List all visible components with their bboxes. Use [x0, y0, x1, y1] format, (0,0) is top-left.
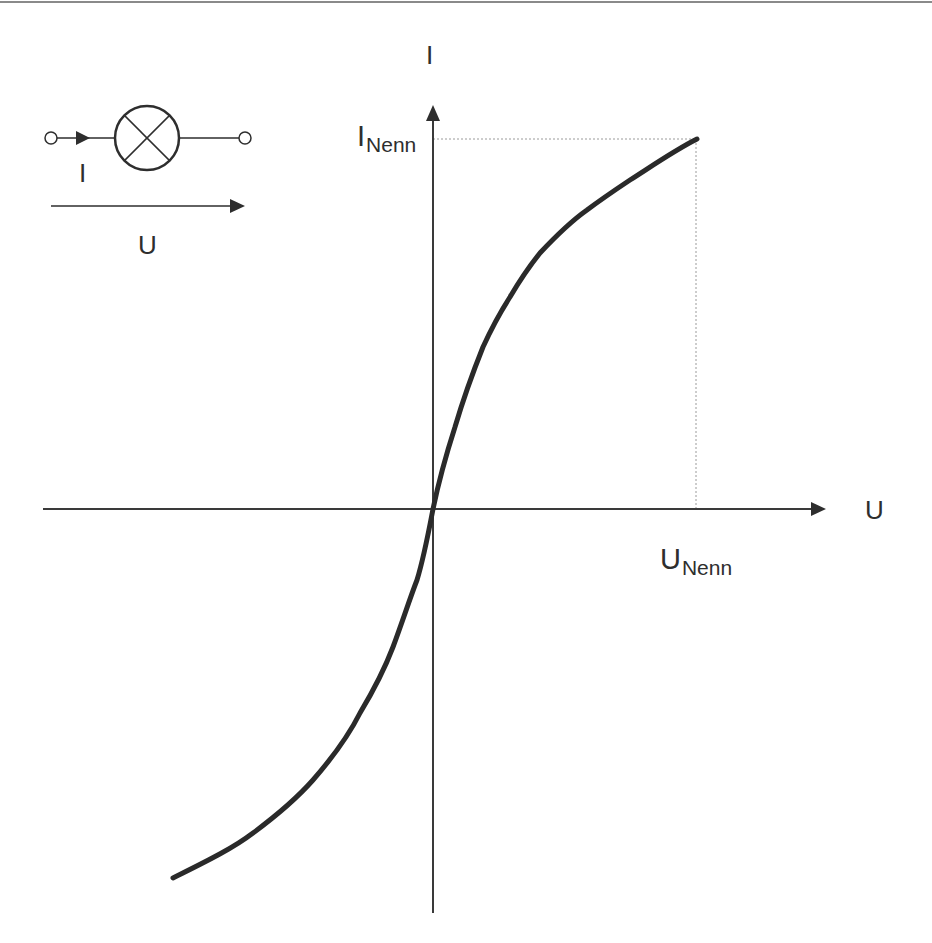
circuit-voltage-label-text: U [138, 230, 157, 260]
left-terminal-icon [45, 132, 57, 144]
nominal-guides [433, 139, 696, 509]
u-nenn-label: UNenn [660, 545, 732, 574]
i-nenn-subscript: Nenn [366, 133, 416, 156]
current-direction-arrow-icon [76, 131, 90, 145]
y-axis-label-text: I [426, 40, 433, 70]
circuit-current-label-text: I [79, 158, 86, 188]
voltage-arrow-icon [230, 199, 245, 213]
circuit-voltage-label: U [138, 232, 157, 258]
x-axis-label-text: U [865, 495, 884, 525]
diagram-canvas [0, 0, 932, 943]
x-axis-label: U [865, 497, 884, 523]
right-terminal-icon [239, 132, 251, 144]
u-nenn-subscript: Nenn [682, 556, 732, 579]
circuit-current-label: I [79, 160, 86, 186]
lamp-circuit-symbol [45, 106, 251, 213]
y-axis-label: I [426, 42, 433, 68]
u-nenn-main: U [660, 543, 681, 575]
y-axis-arrow-icon [426, 105, 440, 121]
x-axis-arrow-icon [811, 502, 826, 516]
i-nenn-label: INenn [357, 122, 416, 151]
i-nenn-main: I [357, 120, 365, 152]
